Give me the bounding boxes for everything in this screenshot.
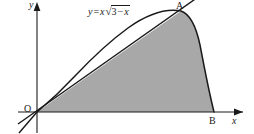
radicand: 3−x — [111, 5, 130, 17]
point-label-A: A — [176, 1, 183, 11]
y-axis-label: y — [29, 0, 33, 10]
equation-equals: = — [92, 6, 100, 17]
radicand-variable: x — [124, 6, 128, 17]
radicand-number: 3 — [112, 6, 117, 17]
point-label-B: B — [209, 116, 216, 126]
y-axis-arrowhead — [34, 2, 41, 11]
x-axis-label: x — [232, 116, 236, 126]
point-label-O: O — [24, 104, 31, 114]
shaded-region — [37, 11, 214, 112]
curve-tail-below-origin — [19, 112, 37, 133]
curve-equation-label: y=x√3−x — [88, 5, 130, 17]
figure-canvas — [0, 0, 254, 134]
math-figure: y=x√3−x y x O A B — [0, 0, 254, 134]
radical-group: √3−x — [105, 5, 130, 17]
